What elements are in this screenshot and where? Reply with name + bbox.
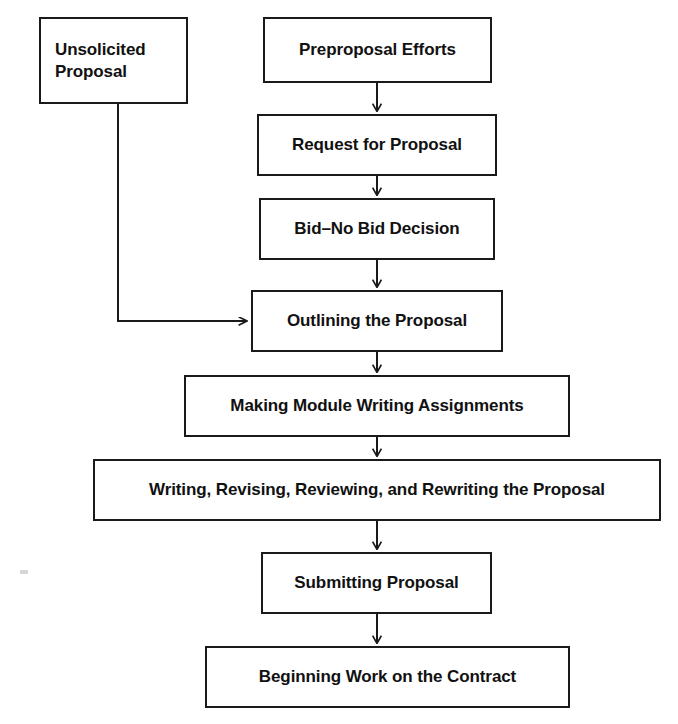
node-preproposal-efforts[interactable]: Preproposal Efforts (263, 17, 492, 83)
node-unsolicited-proposal[interactable]: Unsolicited Proposal (39, 17, 188, 104)
node-bid-no-bid-decision[interactable]: Bid–No Bid Decision (259, 198, 495, 260)
node-request-for-proposal-label: Request for Proposal (286, 134, 468, 156)
flowchart-canvas: Unsolicited Proposal Preproposal Efforts… (0, 0, 678, 724)
node-beginning-work-on-the-contract-label: Beginning Work on the Contract (253, 666, 522, 688)
node-beginning-work-on-the-contract[interactable]: Beginning Work on the Contract (205, 646, 570, 708)
node-making-module-writing-assignments[interactable]: Making Module Writing Assignments (184, 375, 570, 437)
node-outlining-the-proposal[interactable]: Outlining the Proposal (251, 290, 503, 352)
node-request-for-proposal[interactable]: Request for Proposal (257, 114, 497, 176)
node-writing-revising-reviewing-rewriting[interactable]: Writing, Revising, Reviewing, and Rewrit… (93, 459, 661, 521)
node-preproposal-efforts-label: Preproposal Efforts (293, 39, 462, 61)
node-submitting-proposal[interactable]: Submitting Proposal (261, 552, 492, 614)
node-writing-revising-reviewing-rewriting-label: Writing, Revising, Reviewing, and Rewrit… (143, 479, 611, 501)
node-bid-no-bid-decision-label: Bid–No Bid Decision (288, 218, 465, 240)
node-making-module-writing-assignments-label: Making Module Writing Assignments (224, 395, 529, 417)
edge-unsolicited-to-outlining (118, 104, 247, 321)
scan-artifact-mark (20, 570, 28, 574)
connector-layer (0, 0, 678, 724)
node-submitting-proposal-label: Submitting Proposal (288, 572, 464, 594)
node-unsolicited-proposal-label: Unsolicited Proposal (41, 39, 152, 83)
node-outlining-the-proposal-label: Outlining the Proposal (281, 310, 473, 332)
